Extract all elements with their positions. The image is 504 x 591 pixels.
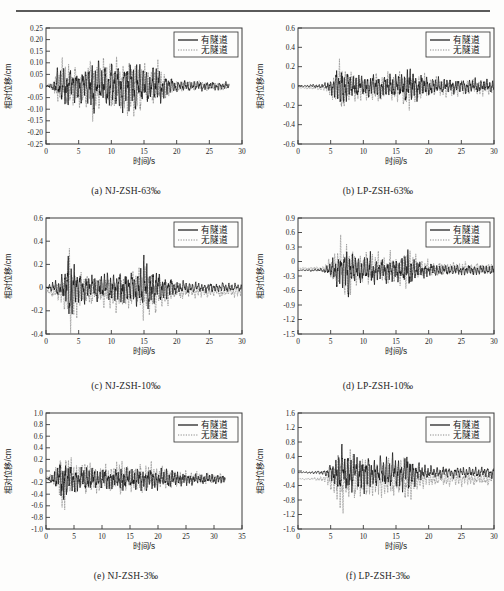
- y-tick-label: 0.8: [34, 420, 44, 429]
- x-tick-label: 10: [108, 337, 116, 346]
- x-tick-label: 30: [490, 532, 498, 541]
- x-tick-label: 0: [44, 147, 48, 156]
- y-tick-label: -0.6: [283, 286, 295, 295]
- y-tick-label: -0.6: [31, 501, 43, 510]
- x-tick-label: 25: [458, 147, 466, 156]
- y-tick-label: 0.6: [286, 24, 296, 33]
- x-tick-label: 5: [329, 147, 333, 156]
- x-tick-label: 25: [206, 147, 214, 156]
- subplot-cell-a: 051015202530-0.25-0.20-0.15-0.10-0.0500.…: [0, 18, 252, 208]
- y-tick-label: 0.3: [286, 243, 296, 252]
- subplot-b: 051015202530-0.6-0.4-0.200.20.40.6时间/s相对…: [252, 18, 504, 178]
- subplot-cell-c: 051015202530-0.4-0.200.20.40.6时间/s相对位移/c…: [0, 208, 252, 403]
- x-tick-label: 15: [140, 147, 148, 156]
- legend-label-without-tunnel: 无隧道: [453, 234, 480, 245]
- y-tick-label: 0: [39, 82, 43, 91]
- x-tick-label: 25: [458, 532, 466, 541]
- x-tick-label: 15: [140, 337, 148, 346]
- subplot-c: 051015202530-0.4-0.200.20.40.6时间/s相对位移/c…: [0, 208, 252, 368]
- y-tick-label: 0.4: [286, 43, 296, 52]
- x-tick-label: 10: [98, 532, 106, 541]
- x-tick-label: 0: [296, 147, 300, 156]
- legend-label-without-tunnel: 无隧道: [201, 44, 228, 55]
- x-tick-label: 15: [126, 532, 134, 541]
- x-tick-label: 5: [77, 147, 81, 156]
- x-tick-label: 30: [210, 532, 218, 541]
- legend-label-with-tunnel: 有隧道: [201, 34, 228, 45]
- y-tick-label: -0.20: [28, 128, 44, 137]
- subplot-caption-a: (a) NJ-ZSH-63‰: [0, 186, 252, 196]
- subplot-caption-b: (b) LP-ZSH-63‰: [252, 186, 504, 196]
- legend-label-without-tunnel: 无隧道: [453, 44, 480, 55]
- y-tick-label: 0.8: [286, 438, 296, 447]
- x-tick-label: 20: [173, 337, 181, 346]
- x-tick-label: 15: [392, 337, 400, 346]
- x-tick-label: 20: [425, 147, 433, 156]
- x-tick-label: 30: [238, 337, 246, 346]
- y-tick-label: 0.25: [30, 24, 43, 33]
- x-tick-label: 25: [182, 532, 190, 541]
- y-axis-label: 相对位移/cm: [3, 448, 13, 493]
- y-tick-label: -0.6: [283, 140, 295, 149]
- y-tick-label: 0: [39, 467, 43, 476]
- y-tick-label: 0: [291, 467, 295, 476]
- x-tick-label: 20: [425, 337, 433, 346]
- x-tick-label: 5: [329, 532, 333, 541]
- x-tick-label: 15: [392, 147, 400, 156]
- legend-label-with-tunnel: 有隧道: [453, 419, 480, 430]
- x-axis-label: 时间/s: [385, 156, 407, 166]
- x-axis-label: 时间/s: [385, 346, 407, 356]
- y-tick-label: 0.10: [30, 58, 43, 67]
- y-tick-label: 1.6: [286, 409, 296, 418]
- subplot-caption-e: (e) NJ-ZSH-3‰: [0, 571, 252, 581]
- y-tick-label: 0.6: [34, 214, 44, 223]
- y-tick-label: 1.2: [286, 423, 296, 432]
- x-tick-label: 30: [238, 147, 246, 156]
- subplot-cell-e: 05101520253035-1.0-0.8-0.6-0.4-0.200.20.…: [0, 403, 252, 591]
- y-tick-label: -1.0: [31, 525, 43, 534]
- subplot-caption-c: (c) NJ-ZSH-10‰: [0, 381, 252, 391]
- y-tick-label: -0.2: [283, 101, 295, 110]
- x-tick-label: 20: [425, 532, 433, 541]
- x-tick-label: 30: [490, 337, 498, 346]
- series-with-tunnel: [298, 69, 494, 102]
- y-tick-label: -1.2: [283, 315, 295, 324]
- x-tick-label: 10: [108, 147, 116, 156]
- y-tick-label: 0.20: [30, 35, 43, 44]
- x-tick-label: 15: [392, 532, 400, 541]
- y-tick-label: 0: [39, 283, 43, 292]
- x-tick-label: 5: [72, 532, 76, 541]
- y-tick-label: -0.2: [31, 478, 43, 487]
- x-tick-label: 0: [296, 532, 300, 541]
- subplot-grid: 051015202530-0.25-0.20-0.15-0.10-0.0500.…: [0, 18, 504, 588]
- x-tick-label: 0: [44, 337, 48, 346]
- y-tick-label: -0.4: [31, 490, 43, 499]
- x-tick-label: 25: [458, 337, 466, 346]
- y-tick-label: -0.05: [28, 93, 44, 102]
- x-tick-label: 0: [296, 337, 300, 346]
- x-tick-label: 35: [238, 532, 246, 541]
- subplot-a: 051015202530-0.25-0.20-0.15-0.10-0.0500.…: [0, 18, 252, 178]
- y-tick-label: -0.4: [283, 120, 295, 129]
- subplot-cell-b: 051015202530-0.6-0.4-0.200.20.40.6时间/s相对…: [252, 18, 504, 208]
- x-axis-label: 时间/s: [133, 541, 155, 551]
- y-tick-label: 0.6: [34, 432, 44, 441]
- y-tick-label: 0.4: [34, 443, 44, 452]
- x-tick-label: 5: [77, 337, 81, 346]
- y-tick-label: -0.25: [28, 140, 44, 149]
- x-axis-label: 时间/s: [133, 346, 155, 356]
- y-axis-label: 相对位移/cm: [3, 253, 13, 298]
- x-tick-label: 25: [206, 337, 214, 346]
- y-tick-label: 0.6: [286, 228, 296, 237]
- y-tick-label: 0.2: [286, 62, 296, 71]
- y-tick-label: -1.5: [283, 330, 295, 339]
- y-tick-label: 1.0: [34, 409, 44, 418]
- plot-c: 051015202530-0.4-0.200.20.40.6时间/s相对位移/c…: [0, 208, 252, 368]
- plot-f: 051015202530-1.6-1.2-0.8-0.400.40.81.21.…: [252, 403, 504, 563]
- plot-e: 05101520253035-1.0-0.8-0.6-0.4-0.200.20.…: [0, 403, 252, 563]
- y-tick-label: -0.10: [28, 105, 44, 114]
- legend-label-without-tunnel: 无隧道: [201, 234, 228, 245]
- y-tick-label: 0: [291, 257, 295, 266]
- x-tick-label: 10: [360, 532, 368, 541]
- y-tick-label: -0.4: [31, 330, 43, 339]
